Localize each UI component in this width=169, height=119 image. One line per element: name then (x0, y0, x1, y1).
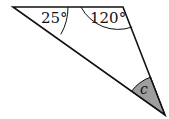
triangle-diagram: 25° 120° c (0, 0, 169, 119)
angle-c-shaded-sector (132, 77, 166, 115)
angle-25-label: 25° (41, 9, 68, 27)
angle-c-label: c (140, 81, 148, 97)
angle-120-label: 120° (90, 9, 126, 27)
triangle (13, 7, 165, 115)
